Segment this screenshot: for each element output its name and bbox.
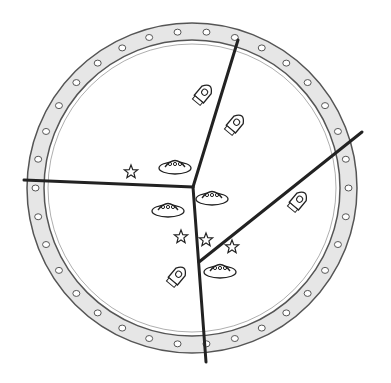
rivet-icon [322, 103, 329, 109]
rivet-icon [174, 29, 181, 35]
rivet-icon [322, 267, 329, 273]
rivet-icon [258, 45, 265, 51]
rivet-icon [283, 310, 290, 316]
rivet-icon [334, 128, 341, 134]
rivet-icon [342, 214, 349, 220]
porthole-drawing [0, 0, 391, 383]
rivet-icon [342, 156, 349, 162]
rivet-icon [146, 336, 153, 342]
rivet-icon [304, 80, 311, 86]
rivet-icon [283, 60, 290, 66]
rivet-icon [304, 290, 311, 296]
rivet-icon [345, 185, 352, 191]
rivet-icon [203, 29, 210, 35]
rivet-icon [174, 341, 181, 347]
rivet-icon [94, 310, 101, 316]
rivet-icon [35, 214, 42, 220]
rivet-icon [32, 185, 39, 191]
rivet-icon [35, 156, 42, 162]
rivet-icon [55, 267, 62, 273]
rivet-icon [258, 325, 265, 331]
rivet-icon [334, 242, 341, 248]
sketch-illustration [0, 0, 391, 383]
rivet-icon [55, 103, 62, 109]
rivet-icon [146, 34, 153, 40]
rivet-icon [43, 128, 50, 134]
rivet-icon [43, 242, 50, 248]
rivet-icon [73, 80, 80, 86]
rivet-icon [119, 45, 126, 51]
rivet-icon [94, 60, 101, 66]
rivet-icon [231, 336, 238, 342]
rivet-icon [73, 290, 80, 296]
rivet-icon [119, 325, 126, 331]
